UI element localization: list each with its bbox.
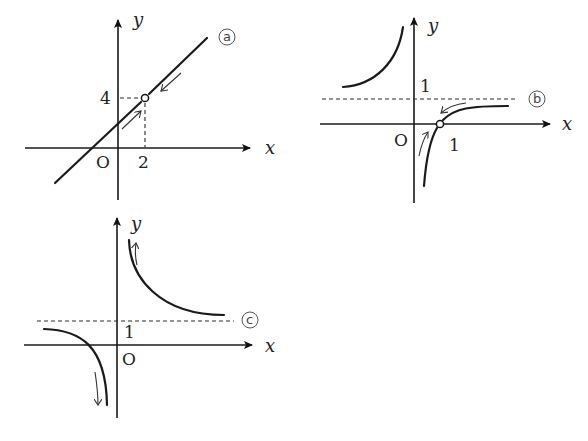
y-tick-label: 1: [124, 322, 135, 342]
origin-label: O: [122, 349, 136, 369]
graph-b: x y O 1 1 b: [320, 15, 572, 203]
curve-right-branch: [443, 106, 508, 120]
approach-arrow-lower: [122, 111, 141, 129]
marker-label-c: c: [246, 312, 253, 327]
curve-lower-branch: [424, 128, 437, 186]
x-axis-label: x: [562, 113, 572, 134]
y-tick-label: 1: [420, 76, 431, 96]
marker-label-b: b: [533, 91, 541, 106]
line-segment-upper: [149, 38, 207, 94]
x-tick-label: 2: [138, 152, 149, 172]
approach-arrow-lower: [419, 132, 428, 156]
graph-c: x y O 1 c: [24, 213, 275, 418]
x-tick-label: 1: [449, 135, 460, 155]
hole-point: [436, 120, 443, 127]
approach-arrow-down: [95, 372, 98, 405]
curve-upper-left-branch: [343, 27, 403, 87]
curve-upper-right-branch: [129, 240, 224, 315]
x-axis-label: x: [265, 335, 275, 356]
x-axis-label: x: [265, 137, 275, 158]
y-tick-label: 4: [100, 88, 111, 108]
origin-label: O: [96, 152, 110, 172]
y-axis-label: y: [427, 15, 439, 36]
approach-arrow-up: [135, 243, 137, 265]
y-axis-label: y: [130, 213, 142, 234]
hole-point: [141, 94, 148, 101]
approach-arrow-upper: [161, 73, 181, 91]
graphs-figure: x y O 2 4 a x y O 1 1 b x y: [0, 0, 588, 441]
y-axis-label: y: [132, 9, 144, 30]
graph-a: x y O 2 4 a: [25, 9, 275, 200]
origin-label: O: [394, 130, 408, 150]
marker-label-a: a: [223, 29, 231, 44]
